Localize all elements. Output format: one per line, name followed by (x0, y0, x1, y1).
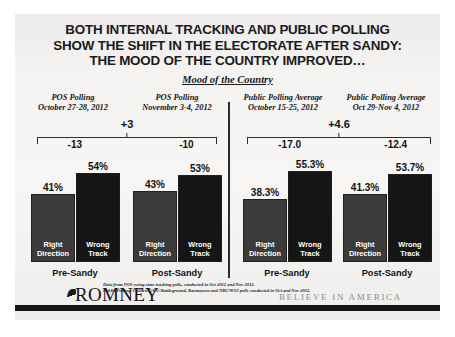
bar-3-wrong-track-rect: Wrong Track (288, 171, 332, 262)
bar-4-wrong-track: 53.7% Wrong Track (388, 174, 432, 262)
bar-2-wrong-track-rect: Wrong Track (178, 175, 222, 262)
bar-group-2-caption: Post-Sandy (127, 268, 227, 278)
slide-canvas: BOTH INTERNAL TRACKING AND PUBLIC POLLIN… (15, 14, 440, 320)
column-header-1-dates: October 27-28, 2012 (23, 103, 123, 113)
bar-1-rd-line2: Direction (37, 249, 69, 258)
bar-2-wt-line2: Track (190, 249, 209, 258)
bar-4-rd-line2: Direction (349, 249, 381, 258)
margin-shift-pos: +3 (121, 118, 134, 130)
bracket-right-end-public (430, 137, 431, 144)
bar-2-right-direction-rect: Right Direction (133, 191, 177, 262)
bar-group-3-bars: 38.3% Right Direction 55.3% Wrong Track (237, 168, 337, 262)
bar-group-2-bars: 43% Right Direction 53% Wrong Track (127, 168, 227, 262)
margin-value-public-post: -12.4 (384, 139, 407, 150)
title-block: BOTH INTERNAL TRACKING AND PUBLIC POLLIN… (15, 14, 440, 85)
margin-bracket-pos: +3 -13 -10 (37, 124, 217, 154)
bracket-left-end-public (247, 137, 248, 144)
bar-4-wrong-track-label: Wrong Track (398, 241, 421, 261)
bar-2-right-direction-value: 43% (145, 179, 165, 190)
bracket-left-end-pos (37, 137, 38, 144)
margin-value-public-pre: -17.0 (278, 139, 301, 150)
bar-1-wt-line2: Track (88, 249, 107, 258)
column-header-1-name: POS Polling (23, 93, 123, 103)
campaign-tagline: BELIEVE IN AMERICA (279, 292, 402, 302)
column-header-4-dates: Oct 29-Nov 4, 2012 (335, 103, 437, 113)
column-header-3-dates: October 15-25, 2012 (231, 103, 335, 113)
title-line-2: SHOW THE SHIFT IN THE ELECTORATE AFTER S… (15, 38, 440, 54)
bar-3-rd-line2: Direction (249, 249, 281, 258)
bar-3-wt-line2: Track (300, 249, 319, 258)
section-divider (228, 102, 230, 278)
bar-1-right-direction-value: 41% (43, 182, 63, 193)
margin-value-pos-pre: -13 (68, 139, 82, 150)
bar-2-wrong-track-label: Wrong Track (188, 241, 211, 261)
column-header-1: POS Polling October 27-28, 2012 (23, 93, 123, 114)
slide-footer: ROMNEY BELIEVE IN AMERICA (15, 284, 440, 320)
romney-logo-text: ROMNEY (75, 284, 159, 305)
column-header-2-dates: November 3-4, 2012 (127, 103, 227, 113)
bar-group-3-caption: Pre-Sandy (237, 268, 337, 278)
bar-2-right-direction-label: Right Direction (139, 241, 171, 261)
margin-bracket-public: +4.6 -17.0 -12.4 (247, 124, 431, 154)
bar-3-right-direction-rect: Right Direction (243, 199, 287, 262)
column-header-3-name: Public Polling Average (231, 93, 335, 103)
footer-rule (15, 305, 440, 311)
bar-2-wrong-track: 53% Wrong Track (178, 175, 222, 262)
title-line-1: BOTH INTERNAL TRACKING AND PUBLIC POLLIN… (15, 22, 440, 38)
romney-logo: ROMNEY (67, 284, 159, 306)
bar-1-right-direction: 41% Right Direction (31, 194, 75, 262)
bar-group-2: 43% Right Direction 53% Wrong Track (127, 166, 227, 278)
bar-1-wrong-track-label: Wrong Track (86, 241, 109, 261)
bracket-right-end-pos (216, 137, 217, 144)
title-line-3: THE MOOD OF THE COUNTRY IMPROVED… (15, 53, 440, 69)
bar-4-right-direction-value: 41.3% (351, 182, 379, 193)
bar-3-wrong-track-label: Wrong Track (298, 241, 321, 261)
bar-1-right-direction-label: Right Direction (37, 241, 69, 261)
bar-4-right-direction-label: Right Direction (349, 241, 381, 261)
bar-3-wrong-track-value: 55.3% (296, 159, 324, 170)
bar-group-4-bars: 41.3% Right Direction 53.7% Wrong Track (337, 168, 437, 262)
bar-2-rd-line2: Direction (139, 249, 171, 258)
bar-4-wrong-track-value: 53.7% (396, 162, 424, 173)
bar-group-1-caption: Pre-Sandy (25, 268, 125, 278)
margin-value-pos-post: -10 (179, 139, 193, 150)
bar-group-3: 38.3% Right Direction 55.3% Wrong Track (237, 166, 337, 278)
margin-shift-public: +4.6 (328, 118, 350, 130)
bar-1-wrong-track: 54% Wrong Track (76, 173, 120, 262)
column-header-2-name: POS Polling (127, 93, 227, 103)
bar-2-wrong-track-value: 53% (190, 163, 210, 174)
bar-group-1: 41% Right Direction 54% Wrong Track (25, 166, 125, 278)
bar-group-1-bars: 41% Right Direction 54% Wrong Track (25, 168, 125, 262)
bar-group-4: 41.3% Right Direction 53.7% Wrong Track (337, 166, 437, 278)
bar-4-right-direction-rect: Right Direction (343, 194, 387, 262)
bar-1-wrong-track-value: 54% (88, 161, 108, 172)
bar-group-4-caption: Post-Sandy (337, 268, 437, 278)
bar-1-wrong-track-rect: Wrong Track (76, 173, 120, 262)
chart-subtitle: Mood of the Country (15, 74, 440, 85)
column-header-4: Public Polling Average Oct 29-Nov 4, 201… (335, 93, 437, 114)
bar-4-right-direction: 41.3% Right Direction (343, 194, 387, 262)
bar-4-wrong-track-rect: Wrong Track (388, 174, 432, 262)
bar-3-right-direction: 38.3% Right Direction (243, 199, 287, 262)
bar-3-right-direction-value: 38.3% (251, 187, 279, 198)
bar-1-right-direction-rect: Right Direction (31, 194, 75, 262)
bar-2-right-direction: 43% Right Direction (133, 191, 177, 262)
bar-3-wrong-track: 55.3% Wrong Track (288, 171, 332, 262)
bar-3-right-direction-label: Right Direction (249, 241, 281, 261)
column-header-4-name: Public Polling Average (335, 93, 437, 103)
column-header-3: Public Polling Average October 15-25, 20… (231, 93, 335, 114)
bar-4-wt-line2: Track (400, 249, 419, 258)
column-header-2: POS Polling November 3-4, 2012 (127, 93, 227, 114)
